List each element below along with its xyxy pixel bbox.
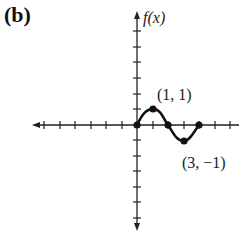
function-graph: f(x) (1, 1) (3, −1) xyxy=(0,0,239,231)
point-origin xyxy=(133,121,140,128)
max-point-label: (1, 1) xyxy=(157,86,192,104)
y-axis-label: f(x) xyxy=(143,9,165,27)
y-axis-up-arrow-icon xyxy=(134,11,140,19)
point-min xyxy=(180,137,187,144)
point-end xyxy=(195,121,202,128)
x-axis-left-arrow-icon xyxy=(32,122,40,128)
y-axis-down-arrow-icon xyxy=(134,223,140,231)
point-zero xyxy=(164,121,171,128)
min-point-label: (3, −1) xyxy=(182,154,226,172)
point-max xyxy=(149,105,156,112)
